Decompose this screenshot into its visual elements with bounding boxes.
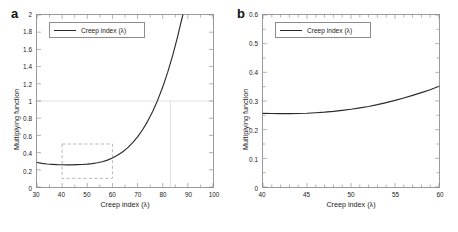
panel-b-ytick-3: 0.3 (236, 98, 258, 105)
panel-b-ytick-5: 0.5 (236, 40, 258, 47)
panel-b-x-axis-label: Creep index (λ) (262, 200, 440, 209)
panel-b-ytick-4: 0.4 (236, 69, 258, 76)
panel-a-ytick-0: 0 (10, 185, 32, 192)
panel-b-xtick-2: 50 (347, 191, 354, 198)
panel-b-ytick-2: 0.2 (236, 127, 258, 134)
panel-a-x-axis-label: Creep index (λ) (36, 200, 214, 209)
panel-b-xtick-0: 40 (258, 191, 265, 198)
panel-a-ytick-5: 1 (10, 98, 32, 105)
panel-b-xtick-4: 60 (436, 191, 443, 198)
panel-a-ytick-4: 0.8 (10, 115, 32, 122)
panel-a-xtick-6: 90 (185, 191, 192, 198)
panel-a-tickmarks (37, 15, 213, 187)
panel-b-tickmarks (263, 15, 439, 187)
panel-b: b Multiplying function Creep index (λ) (229, 0, 458, 232)
panel-a-ytick-3: 0.6 (10, 132, 32, 139)
panel-a-ytick-7: 1.4 (10, 63, 32, 70)
panel-a-xtick-7: 100 (209, 191, 220, 198)
panel-a-ytick-10: 2 (10, 11, 32, 18)
panel-b-ytick-1: 0.1 (236, 156, 258, 163)
panel-a: a Multiplying function Creep index (λ) (0, 0, 229, 232)
panel-b-ytick-6: 0.6 (236, 11, 258, 18)
panel-a-ytick-2: 0.4 (10, 150, 32, 157)
panel-a-xtick-2: 50 (83, 191, 90, 198)
panel-a-ytick-8: 1.6 (10, 45, 32, 52)
panel-a-ytick-6: 1.2 (10, 80, 32, 87)
panel-a-xtick-0: 30 (32, 191, 39, 198)
panel-b-ytick-0: 0 (236, 185, 258, 192)
panel-a-xtick-4: 70 (134, 191, 141, 198)
panel-b-plot-area: Creep index (λ) (262, 14, 440, 188)
panel-a-xtick-5: 80 (160, 191, 167, 198)
panel-a-xtick-1: 40 (58, 191, 65, 198)
panel-a-xtick-3: 60 (109, 191, 116, 198)
panel-a-ytick-1: 0.2 (10, 167, 32, 174)
panel-a-plot-area: Creep index (λ) (36, 14, 214, 188)
panel-b-xtick-1: 45 (303, 191, 310, 198)
panel-b-xtick-3: 55 (392, 191, 399, 198)
panel-a-ytick-9: 1.8 (10, 28, 32, 35)
